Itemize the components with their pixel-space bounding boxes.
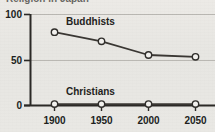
series-label-christians: Christians bbox=[66, 86, 115, 97]
y-tick-label-50: 50 bbox=[11, 55, 23, 66]
x-tick-label-1900: 1900 bbox=[43, 115, 66, 126]
y-tick-label-0: 0 bbox=[16, 100, 22, 111]
data-point-buddhists-1950 bbox=[98, 38, 104, 44]
chart-plot-area: 100 50 0 1900 1950 2000 2050 Buddhists C… bbox=[0, 0, 215, 132]
data-point-christians-2000 bbox=[145, 101, 151, 107]
x-tick-label-2050: 2050 bbox=[184, 115, 207, 126]
chart-figure: Religion in Japan 100 50 0 1900 1950 200… bbox=[0, 0, 215, 132]
series-label-buddhists: Buddhists bbox=[66, 16, 115, 27]
x-tick-label-1950: 1950 bbox=[90, 115, 113, 126]
x-tick-label-2000: 2000 bbox=[137, 115, 160, 126]
data-point-buddhists-2000 bbox=[145, 52, 151, 58]
data-point-christians-1900 bbox=[51, 101, 57, 107]
data-point-christians-1950 bbox=[98, 101, 104, 107]
series-line-buddhists bbox=[55, 32, 196, 57]
y-tick-label-100: 100 bbox=[5, 9, 22, 20]
data-point-buddhists-2050 bbox=[192, 54, 198, 60]
data-point-buddhists-1900 bbox=[51, 29, 57, 35]
data-point-christians-2050 bbox=[192, 101, 198, 107]
